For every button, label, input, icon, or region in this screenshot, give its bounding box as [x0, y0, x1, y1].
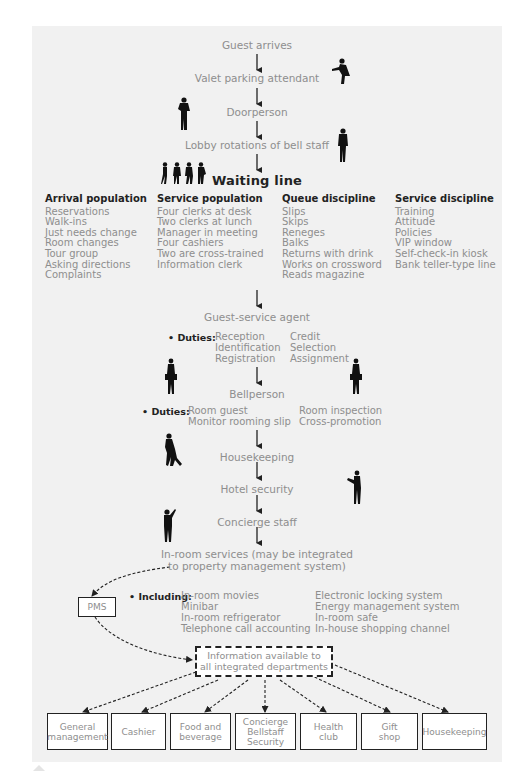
info-box-line: Information available to: [197, 650, 331, 661]
agent-duties-col1: Reception Identification Registration: [215, 331, 281, 364]
column-item: Tour group: [45, 249, 147, 260]
housekeeper-vacuum-silhouette-icon: [165, 433, 182, 466]
node-waiting-line: Waiting line: [212, 173, 302, 188]
duty-item: Credit: [290, 331, 349, 342]
dept-line: Gift: [379, 722, 401, 732]
agent-right-silhouette-icon: [350, 359, 362, 394]
concierge-silhouette-icon: [164, 509, 176, 542]
column-item: Information clerk: [157, 260, 264, 271]
in-room-item: Electronic locking system: [315, 590, 460, 601]
dept-line: beverage: [179, 732, 222, 742]
in-room-item: In-house shopping channel: [315, 623, 460, 634]
in-room-item: Telephone call accounting: [181, 623, 311, 634]
node-valet-parking-attendant: Valet parking attendant: [195, 72, 319, 84]
duty-item: Monitor rooming slip: [188, 416, 291, 427]
in-room-col1: In-room movies Minibar In-room refrigera…: [181, 590, 311, 634]
in-room-item: In-room refrigerator: [181, 612, 311, 623]
column-header: Service discipline: [395, 194, 496, 205]
dept-concierge-bellstaff-security: ConciergeBellstaffSecurity: [235, 713, 296, 750]
column-item: Self-check-in kiosk: [395, 249, 496, 260]
node-guest-arrives: Guest arrives: [222, 39, 292, 51]
column-item: Bank teller-type line: [395, 260, 496, 271]
in-room-item: In-room movies: [181, 590, 311, 601]
dept-line: General: [47, 722, 107, 732]
node-housekeeping: Housekeeping: [220, 451, 294, 463]
column-service-discipline: Service discipline Training Attitude Pol…: [395, 194, 496, 270]
agent-left-silhouette-icon: [165, 359, 177, 394]
column-item: Returns with drink: [282, 249, 382, 260]
column-service-population: Service population Four clerks at desk T…: [157, 194, 264, 270]
page-corner-decoration: [33, 765, 45, 771]
dept-line: club: [314, 732, 344, 742]
in-room-item: Energy management system: [315, 601, 460, 612]
dept-cashier: Cashier: [111, 713, 166, 750]
dept-line: Concierge: [243, 717, 288, 727]
duty-item: Registration: [215, 353, 281, 364]
node-guest-service-agent: Guest-service agent: [204, 311, 310, 323]
column-item: Two are cross-trained: [157, 249, 264, 260]
dept-line: Food and: [179, 722, 222, 732]
dept-general-management: Generalmanagement: [47, 713, 108, 750]
info-available-box: Information available to all integrated …: [195, 646, 333, 677]
dashed-connectors: [83, 567, 448, 712]
node-hotel-security: Hotel security: [220, 483, 293, 495]
pms-box: PMS: [78, 597, 116, 617]
duty-item: Identification: [215, 342, 281, 353]
duty-item: Room guest: [188, 405, 291, 416]
node-concierge-staff: Concierge staff: [217, 516, 296, 528]
duty-item: Cross-promotion: [299, 416, 382, 427]
node-doorperson: Doorperson: [226, 106, 287, 118]
in-room-col2: Electronic locking system Energy managem…: [315, 590, 460, 634]
doorperson-silhouette-icon: [178, 97, 190, 130]
dept-gift-shop: Giftshop: [361, 713, 418, 750]
dept-line: Housekeeping: [423, 727, 487, 737]
column-header: Service population: [157, 194, 264, 205]
info-box-line: all integrated departments: [197, 661, 331, 672]
column-header: Arrival population: [45, 194, 147, 205]
duty-item: Reception: [215, 331, 281, 342]
node-lobby-rotations: Lobby rotations of bell staff: [185, 139, 329, 151]
agent-duties-col2: Credit Selection Assignment: [290, 331, 349, 364]
bell-duties-col1: Room guest Monitor rooming slip: [188, 405, 291, 427]
dept-line: Health: [314, 722, 344, 732]
dept-housekeeping: Housekeeping: [422, 713, 487, 750]
column-item: Reads magazine: [282, 270, 382, 281]
column-header: Queue discipline: [282, 194, 382, 205]
duty-item: Assignment: [290, 353, 349, 364]
in-room-item: In-room safe: [315, 612, 460, 623]
waiting-guests-silhouette-icon: [161, 162, 206, 184]
agent-duties-label: • Duties:: [168, 332, 216, 343]
duty-item: Selection: [290, 342, 349, 353]
column-item: Complaints: [45, 270, 147, 281]
node-in-room-services-line2: to property management system): [168, 560, 346, 572]
bellstaff-silhouette-icon: [338, 128, 348, 162]
column-arrival-population: Arrival population Reservations Walk-ins…: [45, 194, 147, 281]
node-bellperson: Bellperson: [229, 388, 285, 400]
column-queue-discipline: Queue discipline Slips Skips Reneges Bal…: [282, 194, 382, 281]
bell-duties-label: • Duties:: [142, 406, 190, 417]
dept-line: Cashier: [122, 727, 156, 737]
dept-line: Bellstaff: [243, 727, 288, 737]
valet-silhouette-icon: [332, 58, 350, 84]
duty-item: Room inspection: [299, 405, 382, 416]
in-room-item: Minibar: [181, 601, 311, 612]
bell-duties-col2: Room inspection Cross-promotion: [299, 405, 382, 427]
node-in-room-services-line1: In-room services (may be integrated: [161, 548, 353, 560]
security-silhouette-icon: [347, 471, 361, 504]
dept-line: Security: [243, 737, 288, 747]
dept-line: management: [47, 732, 107, 742]
dept-food-and-beverage: Food andbeverage: [170, 713, 231, 750]
dept-line: shop: [379, 732, 401, 742]
dept-health-club: Healthclub: [300, 713, 357, 750]
